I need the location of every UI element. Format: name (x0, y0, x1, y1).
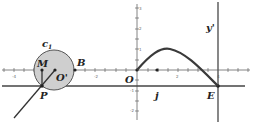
label-j: j (153, 90, 159, 101)
y-tick-label: -1 (130, 88, 134, 93)
line-through-P (14, 70, 55, 118)
point-B (73, 68, 76, 71)
diagram-canvas: -4 -2 2 4 3 2 1 -1 -2 c1 M O' B P O j E … (0, 0, 257, 135)
label-E: E (206, 90, 215, 101)
label-c1: c1 (42, 38, 52, 50)
label-O-prime: O' (56, 72, 68, 83)
point-j-dot (155, 68, 158, 71)
y-tick-label: -2 (130, 108, 134, 113)
y-tick-label: 3 (139, 6, 142, 11)
point-P (40, 84, 44, 88)
y-tick-label: 2 (139, 26, 142, 31)
label-O: O (125, 74, 134, 85)
label-y-prime: y' (205, 22, 215, 33)
label-P: P (39, 90, 48, 101)
x-tick-label: -2 (94, 74, 98, 79)
x-tick-label: 2 (176, 74, 179, 79)
y-tick-label: 1 (139, 47, 142, 52)
label-B: B (76, 57, 85, 68)
curve (137, 49, 218, 86)
label-M: M (36, 58, 49, 69)
x-tick-label: -4 (12, 74, 16, 79)
